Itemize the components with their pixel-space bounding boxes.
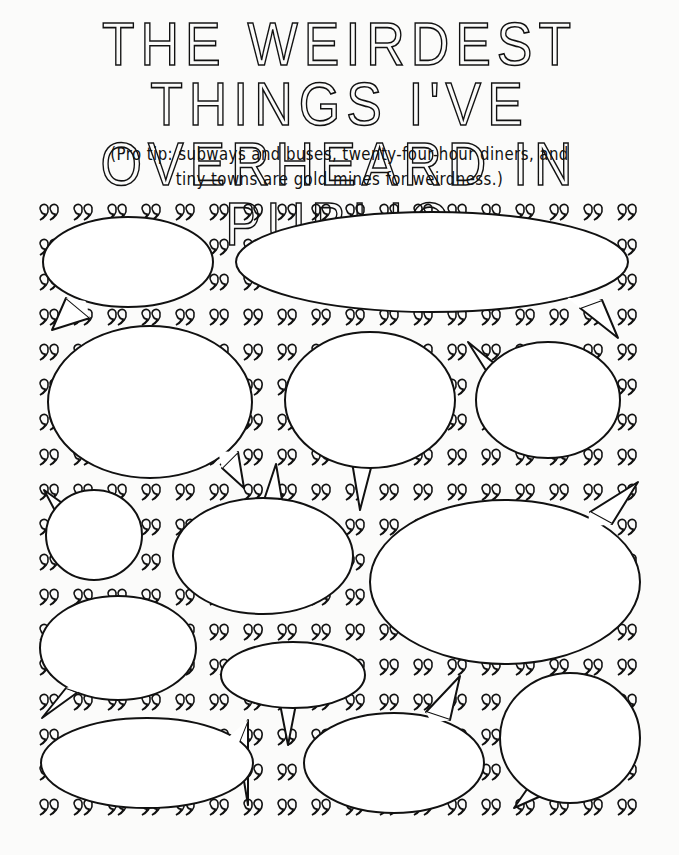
speech-bubble-7[interactable] — [173, 464, 353, 614]
quote-marks-icon — [40, 589, 58, 605]
quote-marks-icon — [414, 659, 432, 675]
quote-marks-icon — [346, 519, 364, 535]
bubble-tail — [426, 676, 460, 720]
bubble-body[interactable] — [46, 490, 142, 580]
quote-marks-icon — [210, 274, 228, 290]
quote-marks-icon — [550, 484, 568, 500]
quote-marks-icon — [448, 484, 466, 500]
quote-marks-icon — [210, 694, 228, 710]
quote-marks-icon — [142, 554, 160, 570]
quote-marks-icon — [312, 624, 330, 640]
quote-marks-icon — [482, 309, 500, 325]
quote-marks-icon — [414, 484, 432, 500]
quote-marks-icon — [584, 204, 602, 220]
quote-marks-icon — [176, 309, 194, 325]
quote-marks-icon — [210, 309, 228, 325]
bubble-body[interactable] — [173, 498, 353, 614]
quote-marks-icon — [516, 484, 534, 500]
speech-bubble-9[interactable] — [40, 596, 196, 718]
speech-bubble-13[interactable] — [500, 673, 640, 808]
quote-marks-icon — [380, 484, 398, 500]
quote-marks-icon — [210, 204, 228, 220]
bubble-tail — [264, 464, 282, 500]
quote-marks-icon — [482, 484, 500, 500]
quote-marks-icon — [346, 309, 364, 325]
speech-bubble-5[interactable] — [468, 342, 620, 458]
quote-marks-icon — [584, 484, 602, 500]
quote-marks-icon — [142, 519, 160, 535]
quote-marks-icon — [210, 799, 228, 815]
quote-marks-icon — [278, 309, 296, 325]
quote-marks-icon — [176, 484, 194, 500]
bubble-body[interactable] — [476, 342, 620, 458]
quote-marks-icon — [482, 729, 500, 745]
quote-marks-icon — [244, 344, 262, 360]
bubble-body[interactable] — [40, 596, 196, 700]
bubble-body[interactable] — [304, 713, 484, 813]
quote-marks-icon — [618, 379, 636, 395]
quote-marks-icon — [278, 449, 296, 465]
quote-marks-icon — [448, 344, 466, 360]
quote-marks-icon — [618, 624, 636, 640]
quote-marks-icon — [312, 484, 330, 500]
speech-bubble-6[interactable] — [44, 490, 142, 580]
quote-marks-icon — [40, 799, 58, 815]
quote-marks-icon — [312, 309, 330, 325]
quote-marks-icon — [380, 694, 398, 710]
quote-marks-icon — [618, 659, 636, 675]
quote-marks-icon — [346, 589, 364, 605]
quote-marks-icon — [448, 449, 466, 465]
quote-marks-icon — [40, 344, 58, 360]
quote-marks-icon — [278, 624, 296, 640]
quote-marks-icon — [618, 309, 636, 325]
quote-marks-icon — [584, 659, 602, 675]
speech-bubble-worksheet — [0, 0, 679, 855]
quote-marks-icon — [278, 204, 296, 220]
quote-marks-icon — [482, 799, 500, 815]
speech-bubble-4[interactable] — [285, 332, 455, 510]
quote-marks-icon — [142, 309, 160, 325]
quote-marks-icon — [176, 204, 194, 220]
quote-marks-icon — [482, 449, 500, 465]
bubble-body[interactable] — [221, 642, 365, 708]
quote-marks-icon — [584, 449, 602, 465]
quote-marks-icon — [618, 449, 636, 465]
bubble-body[interactable] — [285, 332, 455, 468]
quote-marks-icon — [278, 799, 296, 815]
bubble-body[interactable] — [43, 217, 213, 307]
quote-marks-icon — [346, 624, 364, 640]
quote-marks-icon — [74, 204, 92, 220]
quote-marks-icon — [210, 484, 228, 500]
quote-marks-icon — [380, 659, 398, 675]
quote-marks-icon — [244, 624, 262, 640]
quote-marks-icon — [312, 799, 330, 815]
quote-marks-icon — [482, 694, 500, 710]
quote-marks-icon — [244, 204, 262, 220]
quote-marks-icon — [244, 449, 262, 465]
quote-marks-icon — [312, 204, 330, 220]
quote-marks-icon — [40, 204, 58, 220]
quote-marks-icon — [618, 519, 636, 535]
quote-marks-icon — [618, 414, 636, 430]
quote-marks-icon — [380, 519, 398, 535]
quote-marks-icon — [550, 309, 568, 325]
quote-marks-icon — [176, 694, 194, 710]
speech-bubble-1[interactable] — [43, 217, 213, 330]
quote-marks-icon — [618, 204, 636, 220]
bubble-tail — [352, 462, 372, 510]
speech-bubble-8[interactable] — [370, 482, 640, 664]
quote-marks-icon — [618, 799, 636, 815]
quote-marks-icon — [618, 344, 636, 360]
quote-marks-icon — [244, 309, 262, 325]
bubble-body[interactable] — [500, 673, 640, 803]
speech-bubble-11[interactable] — [41, 718, 253, 808]
quote-marks-icon — [516, 309, 534, 325]
bubble-body[interactable] — [236, 212, 628, 312]
quote-marks-icon — [108, 309, 126, 325]
speech-bubble-3[interactable] — [48, 326, 252, 488]
quote-marks-icon — [210, 239, 228, 255]
speech-bubbles — [40, 212, 640, 813]
quote-marks-icon — [142, 484, 160, 500]
quote-marks-icon — [550, 204, 568, 220]
bubble-body[interactable] — [41, 718, 253, 808]
